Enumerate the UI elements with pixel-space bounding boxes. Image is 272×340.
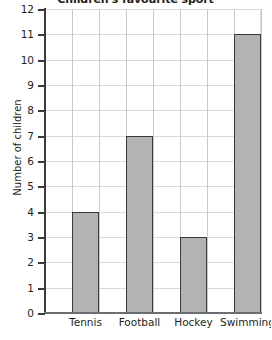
y-tick-mark-1 (38, 288, 45, 290)
bar-chart: Children's favourite sport Number of chi… (0, 0, 271, 340)
gridline-x-8 (261, 9, 262, 313)
y-tick-mark-8 (38, 110, 45, 112)
y-tick-label-5: 5 (0, 181, 34, 192)
y-tick-label-11: 11 (0, 29, 34, 40)
x-tick-label-swimming: Swimming (208, 317, 272, 328)
bar-football (126, 136, 153, 313)
gridline-x-4 (153, 9, 154, 313)
y-tick-mark-11 (38, 34, 45, 36)
chart-title: Children's favourite sport (0, 0, 271, 6)
y-tick-mark-7 (38, 136, 45, 138)
y-tick-label-7: 7 (0, 131, 34, 142)
y-tick-mark-0 (38, 313, 45, 315)
y-tick-mark-5 (38, 186, 45, 188)
plot-area (45, 9, 261, 313)
y-tick-label-8: 8 (0, 105, 34, 116)
y-tick-label-9: 9 (0, 80, 34, 91)
y-tick-label-12: 12 (0, 4, 34, 15)
bar-swimming (234, 34, 261, 313)
y-tick-mark-3 (38, 237, 45, 239)
y-tick-label-0: 0 (0, 308, 34, 319)
y-tick-label-1: 1 (0, 283, 34, 294)
bar-hockey (180, 237, 207, 313)
gridline-x-2 (99, 9, 100, 313)
y-tick-label-3: 3 (0, 232, 34, 243)
y-tick-mark-6 (38, 161, 45, 163)
y-tick-label-10: 10 (0, 55, 34, 66)
y-tick-label-6: 6 (0, 156, 34, 167)
y-tick-mark-2 (38, 262, 45, 264)
y-tick-label-4: 4 (0, 207, 34, 218)
y-tick-label-2: 2 (0, 257, 34, 268)
bar-tennis (72, 212, 99, 313)
y-tick-mark-9 (38, 85, 45, 87)
x-axis-spine (44, 312, 262, 314)
y-tick-mark-12 (38, 9, 45, 11)
y-tick-mark-4 (38, 212, 45, 214)
y-tick-mark-10 (38, 60, 45, 62)
y-axis-title: Number of children (12, 68, 23, 228)
gridline-x-6 (207, 9, 208, 313)
